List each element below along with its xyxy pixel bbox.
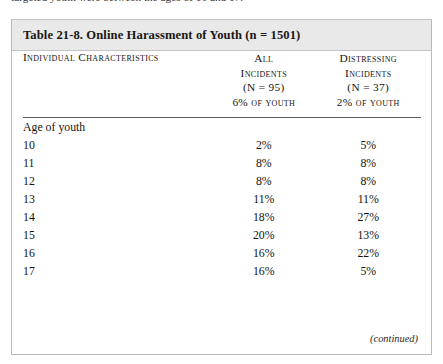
group-heading-all: [212, 118, 315, 136]
row-all-incidents: 8%: [212, 172, 315, 190]
table-header-row: Individual Characteristics All Incidents…: [23, 51, 421, 109]
row-distressing-incidents: 5%: [316, 136, 421, 154]
row-label: 11: [23, 154, 212, 172]
table-body-rows: Age of youth 10 2% 5% 11 8% 8% 12 8%: [23, 118, 421, 280]
column-header-distressing-line1: Distressing: [316, 51, 421, 66]
table-row: 17 16% 5%: [23, 262, 421, 280]
harassment-table: Individual Characteristics All Incidents…: [23, 51, 421, 280]
row-distressing-incidents: 22%: [316, 244, 421, 262]
column-header-all-pct-label: of youth: [248, 96, 295, 108]
row-label: 15: [23, 226, 212, 244]
row-distressing-incidents: 5%: [316, 262, 421, 280]
column-header-distressing-pct-label: of youth: [353, 96, 400, 108]
row-label: 17: [23, 262, 212, 280]
group-heading-distressing: [316, 118, 421, 136]
row-label: 16: [23, 244, 212, 262]
row-all-incidents: 16%: [212, 262, 315, 280]
column-header-all-line2: Incidents: [212, 66, 315, 81]
row-all-incidents: 20%: [212, 226, 315, 244]
column-header-distressing-pct: 2% of youth: [316, 95, 421, 110]
row-all-incidents: 16%: [212, 244, 315, 262]
table-row: 10 2% 5%: [23, 136, 421, 154]
group-heading-row: Age of youth: [23, 118, 421, 136]
row-all-incidents: 2%: [212, 136, 315, 154]
row-distressing-incidents: 8%: [316, 172, 421, 190]
header-rule: [23, 109, 421, 118]
table-caption: Table 21-8. Online Harassment of Youth (…: [23, 28, 300, 43]
row-distressing-incidents: 27%: [316, 208, 421, 226]
table-caption-band: Table 21-8. Online Harassment of Youth (…: [12, 20, 431, 51]
column-header-all-n: (N = 95): [212, 80, 315, 95]
column-header-characteristics: Individual Characteristics: [23, 51, 212, 109]
table-row: 12 8% 8%: [23, 172, 421, 190]
column-header-all-incidents: All Incidents (N = 95) 6% of youth: [212, 51, 315, 109]
row-label: 14: [23, 208, 212, 226]
column-header-all-pct: 6% of youth: [212, 95, 315, 110]
table-row: 15 20% 13%: [23, 226, 421, 244]
row-all-incidents: 18%: [212, 208, 315, 226]
column-header-distressing-pct-value: 2%: [337, 96, 353, 108]
row-label: 12: [23, 172, 212, 190]
table-block: Table 21-8. Online Harassment of Youth (…: [11, 19, 432, 355]
continued-note: (continued): [370, 333, 418, 344]
row-all-incidents: 8%: [212, 154, 315, 172]
table-row: 13 11% 11%: [23, 190, 421, 208]
row-label: 10: [23, 136, 212, 154]
row-distressing-incidents: 13%: [316, 226, 421, 244]
row-distressing-incidents: 11%: [316, 190, 421, 208]
table-body: Individual Characteristics All Incidents…: [12, 51, 431, 280]
row-distressing-incidents: 8%: [316, 154, 421, 172]
column-header-all-pct-value: 6%: [232, 96, 248, 108]
column-header-distressing-n: (N = 37): [316, 80, 421, 95]
group-heading-label: Age of youth: [23, 118, 212, 136]
column-header-distressing-incidents: Distressing Incidents (N = 37) 2% of you…: [316, 51, 421, 109]
row-label: 13: [23, 190, 212, 208]
table-row: 11 8% 8%: [23, 154, 421, 172]
column-header-all-line1: All: [212, 51, 315, 66]
table-row: 16 16% 22%: [23, 244, 421, 262]
running-text-tail: targeted youth were between the ages of …: [11, 0, 431, 3]
table-row: 14 18% 27%: [23, 208, 421, 226]
row-all-incidents: 11%: [212, 190, 315, 208]
column-header-distressing-line2: Incidents: [316, 66, 421, 81]
